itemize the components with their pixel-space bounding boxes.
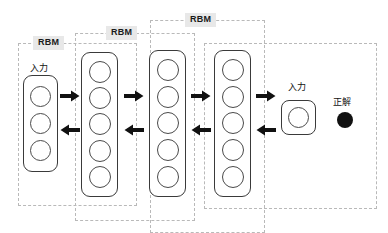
rbm-label-2: RBM [106,26,137,40]
backward-arrow-2 [124,124,144,136]
neuron [89,61,111,83]
neuron [222,139,244,161]
input-caption-left: 入力 [30,61,48,74]
diagram-canvas: RBM RBM RBM 入力 入力 正解 [0,0,388,233]
neuron [157,166,179,188]
neuron [89,166,111,188]
forward-arrow-1 [60,90,80,102]
rbm-label-1: RBM [33,36,64,50]
forward-arrow-2 [124,90,144,102]
neuron-layer-3 [149,50,186,197]
neuron-layer-4 [214,50,251,197]
neuron [89,140,111,162]
neuron [30,86,51,107]
input-caption-right: 入力 [288,80,306,93]
backward-arrow-1 [60,124,80,136]
neuron [222,112,244,134]
neuron [157,139,179,161]
forward-arrow-4 [256,90,276,102]
backward-arrow-4 [256,124,276,136]
forward-arrow-3 [191,90,211,102]
neuron [89,113,111,135]
neuron [222,86,244,108]
backward-arrow-3 [191,124,211,136]
output-unit-box [281,100,316,135]
neuron-layer-2 [81,52,118,197]
neuron [89,87,111,109]
neuron [30,140,51,161]
target-dot [337,112,353,128]
neuron [222,59,244,81]
rbm-label-3: RBM [185,13,216,27]
target-caption: 正解 [333,95,351,108]
neuron-layer-1 [23,75,58,172]
neuron [157,86,179,108]
neuron [157,112,179,134]
neuron [30,113,51,134]
neuron [222,166,244,188]
neuron [288,107,309,128]
neuron [157,59,179,81]
